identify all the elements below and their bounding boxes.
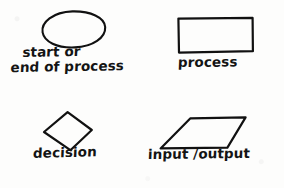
terminator-label-line2: end of process — [10, 59, 124, 75]
symbol-decision: decision — [0, 94, 142, 188]
symbol-input-output: input /output — [142, 94, 284, 188]
decision-label-line1: decision — [33, 145, 97, 161]
flowchart-symbol-legend: start or end of process process decision… — [0, 0, 284, 188]
process-label: process — [178, 55, 238, 69]
rectangle-shape — [142, 0, 284, 60]
terminator-label: start or end of process — [21, 44, 125, 74]
decision-label: decision — [33, 145, 97, 161]
symbol-process: process — [142, 0, 284, 94]
symbol-terminator: start or end of process — [0, 0, 142, 94]
input-output-label: input /output — [148, 147, 251, 162]
process-label-line1: process — [178, 55, 238, 69]
input-output-label-line1: input /output — [148, 147, 251, 162]
